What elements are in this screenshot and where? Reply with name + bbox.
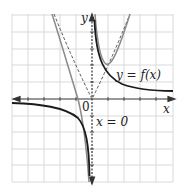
axes [13,14,175,184]
x-axis-right-arrow-icon [168,97,175,102]
function-graph: y x 0 y = f(x) x = 0 [0,0,181,189]
y-axis-label: y [80,11,88,25]
origin-label: 0 [82,100,90,114]
asymptote-label: x = 0 [96,115,128,129]
function-label: y = f(x) [115,68,161,82]
f-curve-left-branch [52,14,89,182]
x-axis-label: x [163,102,170,116]
y-axis-down-arrow-icon [90,177,95,184]
x-axis-left-arrow-icon [13,97,20,102]
